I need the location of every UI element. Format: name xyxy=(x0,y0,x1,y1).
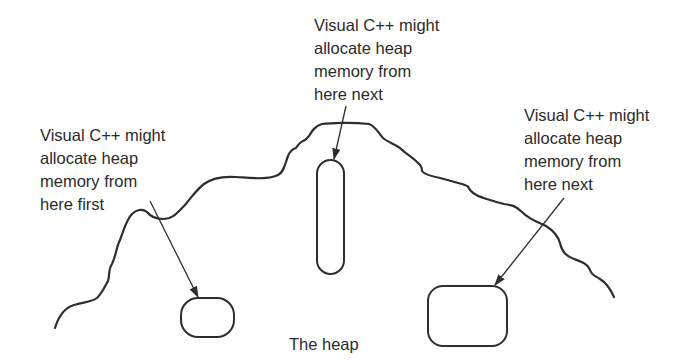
annotation-next-right-line-2: allocate heap xyxy=(524,129,622,147)
annotation-next-middle-line-1: Visual C++ might xyxy=(314,16,440,34)
annotation-next-right: Visual C++ might allocate heap memory fr… xyxy=(524,106,650,193)
annotation-next-right-line-4: here next xyxy=(524,175,593,193)
annotation-first: Visual C++ might allocate heap memory fr… xyxy=(40,126,166,213)
heap-caption: The heap xyxy=(289,335,359,353)
heap-diagram: Visual C++ might allocate heap memory fr… xyxy=(0,0,696,362)
small-block xyxy=(181,298,234,337)
annotation-first-line-3: memory from xyxy=(40,172,137,190)
annotation-next-middle: Visual C++ might allocate heap memory fr… xyxy=(314,16,440,103)
annotation-next-middle-line-4: here next xyxy=(314,85,383,103)
annotation-first-line-4: here first xyxy=(40,195,105,213)
annotation-next-right-line-3: memory from xyxy=(524,152,621,170)
annotation-next-middle-line-3: memory from xyxy=(314,62,411,80)
tall-block xyxy=(317,160,344,274)
annotation-first-line-1: Visual C++ might xyxy=(40,126,166,144)
wide-block xyxy=(428,286,507,346)
heap-diagram-svg: Visual C++ might allocate heap memory fr… xyxy=(0,0,696,362)
annotation-first-line-2: allocate heap xyxy=(40,149,138,167)
arrow-next-middle xyxy=(334,106,346,159)
annotation-next-right-line-1: Visual C++ might xyxy=(524,106,650,124)
arrow-next-right xyxy=(495,198,564,285)
annotation-next-middle-line-2: allocate heap xyxy=(314,39,412,57)
